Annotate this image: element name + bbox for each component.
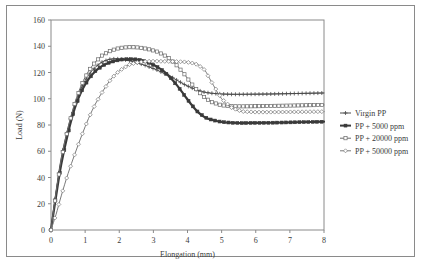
series-marker xyxy=(103,63,106,66)
series-marker xyxy=(285,121,288,124)
legend-entry-1[interactable]: Virgin PP xyxy=(340,109,387,118)
series-marker xyxy=(202,95,205,98)
series-marker xyxy=(320,103,323,106)
series-marker xyxy=(61,150,64,153)
series-marker xyxy=(298,121,301,124)
series-marker xyxy=(108,50,111,53)
series-marker xyxy=(209,118,212,121)
series-marker xyxy=(57,173,60,176)
series-marker xyxy=(297,104,300,107)
series-marker xyxy=(124,46,127,49)
series-marker xyxy=(89,67,92,70)
series-marker xyxy=(77,91,80,94)
load-elongation-chart: 020406080100120140160012345678Elongation… xyxy=(0,0,423,272)
series-marker xyxy=(69,164,73,168)
series-marker xyxy=(280,121,283,124)
series-marker xyxy=(199,92,202,95)
series-marker xyxy=(261,104,264,107)
series-marker xyxy=(196,110,199,113)
series-marker xyxy=(80,132,84,136)
y-axis-tick-label: 160 xyxy=(33,16,45,25)
y-axis-tick-label: 120 xyxy=(33,69,45,78)
series-2 xyxy=(50,58,325,232)
series-marker xyxy=(223,121,226,124)
series-marker xyxy=(214,102,217,105)
series-marker xyxy=(267,121,270,124)
series-marker xyxy=(144,47,147,50)
series-marker xyxy=(302,121,305,124)
series-marker xyxy=(148,48,151,51)
series-marker xyxy=(179,68,182,71)
series-marker xyxy=(159,59,163,63)
series-marker xyxy=(96,58,99,61)
series-marker xyxy=(151,59,155,63)
series-marker xyxy=(292,110,296,114)
series-marker xyxy=(312,110,316,114)
series-marker xyxy=(258,121,261,124)
series-marker xyxy=(218,103,221,106)
series-marker xyxy=(178,87,181,90)
series-marker xyxy=(205,116,208,119)
series-marker xyxy=(132,46,135,49)
series-marker xyxy=(85,81,88,84)
series-marker xyxy=(281,110,285,114)
x-axis-tick-label: 1 xyxy=(83,236,87,245)
series-marker xyxy=(245,110,249,114)
series-marker xyxy=(277,104,280,107)
legend-entry-2[interactable]: PP + 5000 ppm xyxy=(340,122,405,131)
series-marker xyxy=(316,120,319,123)
series-marker xyxy=(165,72,168,75)
series-marker xyxy=(69,117,72,120)
series-marker xyxy=(284,110,288,114)
series-marker xyxy=(76,142,80,146)
series-marker xyxy=(308,110,312,114)
y-axis-tick-label: 80 xyxy=(37,121,45,130)
series-marker xyxy=(151,49,154,52)
series-marker xyxy=(214,119,217,122)
legend-entry-4[interactable]: PP + 50000 ppm xyxy=(340,147,409,156)
series-marker xyxy=(301,104,304,107)
series-marker xyxy=(265,110,269,114)
y-axis-tick-label: 40 xyxy=(37,174,45,183)
series-marker xyxy=(128,46,131,49)
plot-area-border xyxy=(51,20,324,230)
series-marker xyxy=(253,105,256,108)
series-marker xyxy=(191,105,194,108)
legend-label: PP + 20000 ppm xyxy=(355,134,409,143)
series-marker xyxy=(273,104,276,107)
series-marker xyxy=(190,61,194,65)
x-axis-tick-label: 8 xyxy=(322,236,326,245)
series-marker xyxy=(159,52,162,55)
series-marker xyxy=(76,100,79,103)
series-marker xyxy=(116,47,119,50)
series-marker xyxy=(231,121,234,124)
series-marker xyxy=(160,69,163,72)
series-marker xyxy=(93,62,96,65)
series-marker xyxy=(273,110,277,114)
series-marker xyxy=(293,104,296,107)
series-marker xyxy=(100,54,103,57)
series-marker xyxy=(112,60,115,63)
series-marker xyxy=(98,66,101,69)
series-1 xyxy=(49,57,324,232)
series-marker xyxy=(65,132,68,135)
x-axis-tick-label: 2 xyxy=(117,236,121,245)
y-axis-title: Load (N) xyxy=(15,110,24,140)
series-marker xyxy=(257,110,261,114)
series-marker xyxy=(257,105,260,108)
series-marker xyxy=(187,99,190,102)
series-marker xyxy=(316,110,320,114)
legend-entry-3[interactable]: PP + 20000 ppm xyxy=(340,134,409,143)
series-marker xyxy=(265,104,268,107)
x-axis-title: Elongation (mm) xyxy=(160,250,215,259)
axes-group: 020406080100120140160012345678Elongation… xyxy=(15,16,326,259)
series-marker xyxy=(222,104,225,107)
series-marker xyxy=(195,88,198,91)
series-marker xyxy=(254,121,257,124)
series-marker xyxy=(296,110,300,114)
series-marker xyxy=(249,110,253,114)
series-marker xyxy=(250,105,253,108)
y-axis-tick-label: 0 xyxy=(41,226,45,235)
series-marker xyxy=(307,121,310,124)
series-marker xyxy=(191,83,194,86)
